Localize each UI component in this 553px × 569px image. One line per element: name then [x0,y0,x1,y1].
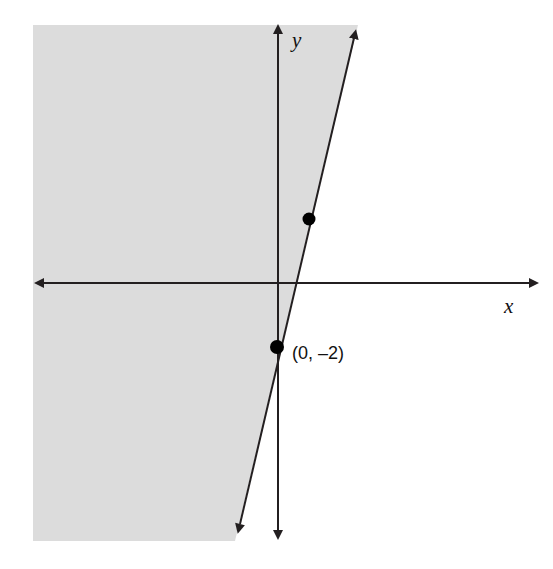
plotted-point-upper [303,213,316,226]
graph-figure: y x (0, –2) [0,0,553,569]
intercept-point-label: (0, –2) [292,343,344,363]
x-axis-label: x [503,294,514,318]
y-axis-label: y [290,28,302,52]
coordinate-plane-svg: y x (0, –2) [0,0,553,569]
plotted-point-intercept [270,340,284,354]
